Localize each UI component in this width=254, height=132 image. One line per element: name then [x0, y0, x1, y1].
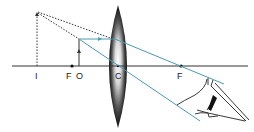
ray-refracted: [115, 39, 224, 84]
ray-arrowhead: [98, 37, 102, 41]
lens-diagram: I F O C F: [0, 0, 254, 132]
label-focal-left: F: [66, 71, 72, 81]
label-image: I: [35, 71, 38, 81]
label-center: C: [115, 71, 122, 81]
focal-point-left: [70, 64, 73, 67]
dotted-extension-2: [38, 13, 79, 39]
dotted-extension-1: [38, 12, 113, 39]
eye-icon: [177, 78, 249, 121]
label-focal-right: F: [177, 71, 183, 81]
label-object: O: [76, 71, 83, 81]
object-arrowhead: [77, 49, 81, 53]
